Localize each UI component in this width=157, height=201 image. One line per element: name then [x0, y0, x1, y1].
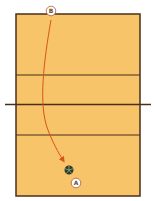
ball-icon [65, 166, 74, 175]
player-marker-b: B [46, 6, 56, 16]
court-diagram: B A [0, 0, 157, 201]
player-marker-a: A [71, 178, 81, 188]
player-marker-a-label: A [74, 179, 79, 186]
player-marker-b-label: B [49, 7, 54, 14]
